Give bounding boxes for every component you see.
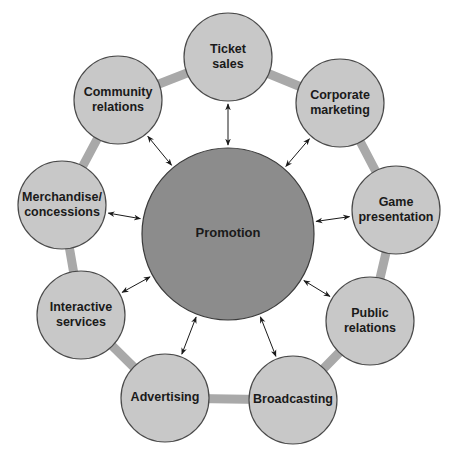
promotion-diagram: Promotion TicketsalesCorporatemarketingG… bbox=[0, 0, 453, 459]
bidirectional-arrow-icon bbox=[304, 280, 330, 296]
bidirectional-arrow-icon bbox=[316, 217, 349, 222]
bidirectional-arrow-icon bbox=[108, 213, 140, 219]
node-label: services bbox=[56, 315, 106, 329]
node-label: Corporate bbox=[310, 88, 370, 102]
node-label: Interactive bbox=[50, 300, 113, 314]
node-corporate-marketing: Corporatemarketing bbox=[296, 59, 384, 147]
node-label: presentation bbox=[358, 210, 433, 224]
node-label: relations bbox=[344, 321, 396, 335]
node-label: Advertising bbox=[131, 390, 200, 404]
bidirectional-arrow-icon bbox=[286, 139, 310, 167]
center-node: Promotion bbox=[142, 148, 314, 320]
bidirectional-arrow-icon bbox=[260, 317, 275, 356]
node-ticket-sales: Ticketsales bbox=[184, 13, 272, 101]
bidirectional-arrow-icon bbox=[182, 317, 196, 354]
node-label: concessions bbox=[24, 205, 100, 219]
node-label: Public bbox=[351, 306, 389, 320]
bidirectional-arrow-icon bbox=[122, 277, 150, 292]
node-label: Ticket bbox=[210, 42, 247, 56]
node-label: marketing bbox=[310, 103, 370, 117]
node-advertising: Advertising bbox=[121, 354, 209, 442]
node-merchandise-concessions: Merchandise/concessions bbox=[18, 161, 106, 249]
node-community-relations: Communityrelations bbox=[74, 56, 162, 144]
node-label: Merchandise/ bbox=[22, 190, 102, 204]
node-game-presentation: Gamepresentation bbox=[352, 166, 440, 254]
node-broadcasting: Broadcasting bbox=[249, 356, 337, 444]
node-label: Game bbox=[379, 195, 414, 209]
bidirectional-arrow-icon bbox=[148, 136, 172, 165]
node-label: relations bbox=[92, 100, 144, 114]
node-label: Community bbox=[84, 85, 153, 99]
center-label: Promotion bbox=[196, 225, 261, 240]
node-interactive-services: Interactiveservices bbox=[37, 271, 125, 359]
node-public-relations: Publicrelations bbox=[326, 277, 414, 365]
node-label: sales bbox=[212, 57, 243, 71]
node-label: Broadcasting bbox=[253, 392, 333, 406]
